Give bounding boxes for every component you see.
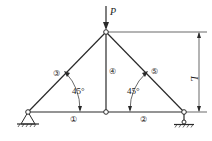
angle-label-left: 45° bbox=[72, 86, 85, 96]
truss-diagram: P L 45° 45° ③ ④ ⑤ ① ② bbox=[0, 0, 212, 141]
member-label-3: ③ bbox=[53, 69, 60, 78]
load-arrow bbox=[103, 6, 109, 30]
joint-top bbox=[104, 30, 109, 35]
dimension-label: L bbox=[189, 75, 200, 82]
load-label: P bbox=[109, 6, 116, 17]
member-label-2: ② bbox=[140, 115, 147, 124]
member-label-4: ④ bbox=[109, 67, 116, 76]
member-label-5: ⑤ bbox=[151, 67, 158, 76]
angle-label-right: 45° bbox=[127, 86, 140, 96]
joint-bottom-middle bbox=[104, 110, 109, 115]
member-label-1: ① bbox=[70, 115, 77, 124]
